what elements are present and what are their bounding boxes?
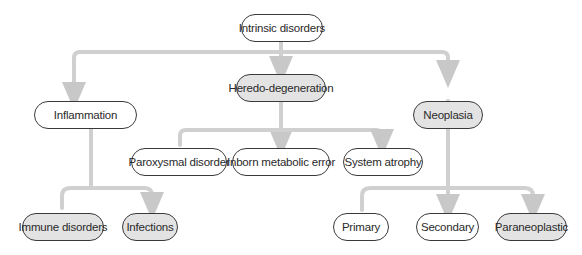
node-paraneoplastic: Paraneoplastic bbox=[496, 213, 567, 241]
node-paroxysmal-disorder: Paroxysmal disorder bbox=[131, 148, 227, 176]
node-system-atrophy: System atrophy bbox=[343, 148, 423, 176]
node-infections: Infections bbox=[122, 213, 178, 241]
node-neoplasia: Neoplasia bbox=[413, 101, 483, 129]
node-primary: Primary bbox=[333, 213, 389, 241]
node-intrinsic-disorders: Intrinsic disorders bbox=[241, 14, 323, 42]
node-inflammation: Inflammation bbox=[34, 101, 137, 129]
node-inborn-metabolic-error: Inborn metabolic error bbox=[232, 148, 330, 176]
node-immune-disorders: Immune disorders bbox=[22, 213, 104, 241]
node-heredo-degeneration: Heredo-degeneration bbox=[236, 74, 326, 102]
node-secondary: Secondary bbox=[416, 213, 479, 241]
